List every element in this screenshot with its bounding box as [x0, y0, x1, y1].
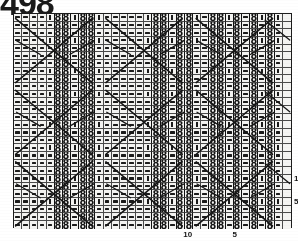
stitch-symbol-eight — [152, 129, 159, 136]
chart-cell — [250, 129, 258, 137]
chart-cell — [250, 175, 258, 183]
chart-cell — [128, 167, 136, 175]
stitch-symbol-eight — [152, 221, 159, 229]
stitch-symbol-blank — [283, 121, 291, 128]
stitch-symbol-dash — [47, 52, 54, 59]
stitch-symbol-eight — [177, 45, 184, 52]
chart-cell — [47, 144, 55, 152]
chart-cell — [144, 114, 152, 122]
chart-cell — [161, 183, 169, 191]
stitch-symbol-dash — [242, 114, 249, 121]
chart-cell — [87, 137, 95, 145]
stitch-symbol-dash — [71, 213, 78, 220]
chart-cell — [152, 213, 160, 221]
chart-cell — [95, 175, 103, 183]
chart-cell — [95, 91, 103, 99]
stitch-symbol-dash — [226, 160, 233, 167]
chart-cell — [218, 75, 226, 83]
stitch-symbol-dash — [104, 68, 111, 75]
stitch-symbol-eight — [152, 29, 159, 36]
stitch-symbol-dash — [258, 75, 265, 82]
chart-cell — [283, 167, 291, 175]
chart-cell — [79, 190, 87, 198]
stitch-symbol-eight — [63, 160, 70, 167]
chart-cell — [250, 198, 258, 206]
stitch-symbol-dash — [95, 190, 102, 197]
chart-cell — [120, 129, 128, 137]
chart-cell — [283, 152, 291, 160]
stitch-symbol-eight — [234, 29, 241, 36]
chart-cell — [242, 213, 250, 221]
stitch-symbol-dash — [95, 22, 102, 29]
chart-cell — [209, 91, 217, 99]
chart-cell — [47, 152, 55, 160]
stitch-symbol-dash — [226, 106, 233, 113]
stitch-symbol-dash — [275, 52, 282, 59]
stitch-symbol-eight — [79, 121, 86, 128]
chart-cell — [234, 167, 242, 175]
stitch-symbol-dash — [104, 213, 111, 220]
chart-cell — [120, 45, 128, 53]
chart-cell — [169, 190, 177, 198]
stitch-symbol-eight — [185, 22, 192, 29]
chart-cell — [152, 198, 160, 206]
stitch-symbol-eight — [87, 83, 94, 90]
stitch-symbol-blank — [283, 60, 291, 67]
chart-cell — [275, 114, 283, 122]
stitch-symbol-eight — [177, 37, 184, 44]
stitch-symbol-dash — [144, 213, 151, 220]
stitch-symbol-dash — [120, 167, 127, 174]
chart-cell — [250, 52, 258, 60]
chart-cell — [250, 221, 258, 229]
chart-cell — [283, 91, 291, 99]
chart-cell — [95, 75, 103, 83]
stitch-symbol-bar — [47, 91, 54, 98]
stitch-symbol-dash — [95, 137, 102, 144]
stitch-symbol-eight — [79, 37, 86, 44]
stitch-symbol-bar — [226, 175, 233, 182]
stitch-symbol-dash — [14, 22, 21, 29]
stitch-symbol-dash — [14, 45, 21, 52]
chart-cell — [201, 22, 209, 30]
chart-cell — [161, 45, 169, 53]
chart-cell — [258, 45, 266, 53]
chart-cell — [242, 121, 250, 129]
chart-cell — [266, 52, 274, 60]
chart-cell — [55, 37, 63, 45]
chart-cell — [234, 137, 242, 145]
stitch-symbol-eight — [177, 206, 184, 213]
chart-cell — [63, 129, 71, 137]
chart-cell — [38, 198, 46, 206]
chart-cell — [79, 83, 87, 91]
chart-cell — [22, 175, 30, 183]
chart-cell — [234, 75, 242, 83]
stitch-symbol-eight — [161, 198, 168, 205]
stitch-symbol-eight — [177, 98, 184, 105]
stitch-symbol-dash — [38, 183, 45, 190]
stitch-symbol-dash — [275, 160, 282, 167]
chart-cell — [128, 206, 136, 214]
chart-row — [14, 190, 291, 198]
chart-cell — [47, 206, 55, 214]
stitch-symbol-bar — [169, 14, 176, 21]
chart-cell — [128, 75, 136, 83]
stitch-symbol-dash — [112, 114, 119, 121]
stitch-symbol-dash — [242, 167, 249, 174]
chart-cell — [266, 68, 274, 76]
stitch-symbol-eight — [63, 183, 70, 190]
chart-cell — [79, 98, 87, 106]
chart-cell — [63, 52, 71, 60]
chart-cell — [218, 190, 226, 198]
chart-cell — [185, 75, 193, 83]
stitch-symbol-dash — [275, 60, 282, 67]
chart-cell — [234, 83, 242, 91]
chart-cell — [38, 83, 46, 91]
chart-cell — [177, 175, 185, 183]
stitch-symbol-dash — [30, 221, 37, 229]
chart-cell — [209, 45, 217, 53]
stitch-symbol-dash — [193, 60, 200, 67]
chart-cell — [120, 167, 128, 175]
chart-cell — [136, 91, 144, 99]
stitch-symbol-eight — [79, 167, 86, 174]
chart-cell — [136, 183, 144, 191]
